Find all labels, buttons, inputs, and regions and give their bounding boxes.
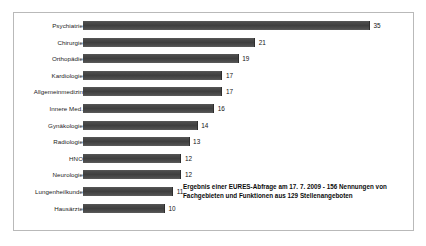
category-label: Neurologie [0, 169, 83, 180]
category-label-container: Innere Med. [14, 103, 83, 114]
bar-row: Psychiatrie35 [14, 20, 413, 31]
bar-row: Neurologie12 [14, 169, 413, 180]
bar [83, 38, 255, 47]
category-label: Kardiologie [0, 70, 83, 81]
bar [83, 71, 222, 80]
bar-value-label: 13 [193, 136, 200, 147]
category-label: HNO [0, 153, 83, 164]
bar-row: Hausärzte10 [14, 203, 413, 214]
category-label-container: Neurologie [14, 169, 83, 180]
bar [83, 104, 214, 113]
chart-annotation: Ergebnis einer EURES-Abfrage am 17. 7. 2… [183, 182, 395, 201]
bar-value-label: 17 [226, 86, 233, 97]
bar-row: Orthopädie19 [14, 53, 413, 64]
bar-row: Chirurgie21 [14, 37, 413, 48]
bar [83, 54, 239, 63]
bar [83, 87, 222, 96]
category-label-container: Radiologie [14, 136, 83, 147]
category-label: Allgemeinmedizin [0, 86, 83, 97]
bar [83, 170, 181, 179]
category-label: Hausärzte [0, 203, 83, 214]
category-label-container: HNO [14, 153, 83, 164]
category-label: Orthopädie [0, 53, 83, 64]
category-label-container: Kardiologie [14, 70, 83, 81]
bar-row: Kardiologie17 [14, 70, 413, 81]
category-label: Lungenheilkunde [0, 186, 83, 197]
bar [83, 121, 198, 130]
bar [83, 154, 181, 163]
bar-value-label: 10 [169, 203, 176, 214]
bar-value-label: 21 [259, 37, 266, 48]
bar [83, 187, 173, 196]
bar-value-label: 12 [185, 153, 192, 164]
bar-value-label: 35 [374, 20, 381, 31]
category-label-container: Orthopädie [14, 53, 83, 64]
category-label-container: Hausärzte [14, 203, 83, 214]
category-label-container: Chirurgie [14, 37, 83, 48]
category-label: Radiologie [0, 136, 83, 147]
bar-row: HNO12 [14, 153, 413, 164]
bar-row: Innere Med.16 [14, 103, 413, 114]
bar-row: Allgemeinmedizin17 [14, 86, 413, 97]
category-label: Chirurgie [0, 37, 83, 48]
annotation-line-2: Fachgebieten und Funktionen aus 129 Stel… [183, 191, 395, 200]
category-label-container: Allgemeinmedizin [14, 86, 83, 97]
bar-value-label: 17 [226, 70, 233, 81]
annotation-line-1: Ergebnis einer EURES-Abfrage am 17. 7. 2… [183, 182, 395, 191]
category-label-container: Psychiatrie [14, 20, 83, 31]
category-label: Gynäkologie [0, 120, 83, 131]
category-label-container: Lungenheilkunde [14, 186, 83, 197]
category-label-container: Gynäkologie [14, 120, 83, 131]
bar-value-label: 16 [218, 103, 225, 114]
category-label: Psychiatrie [0, 20, 83, 31]
bar [83, 21, 370, 30]
bar [83, 137, 190, 146]
bar-value-label: 19 [242, 53, 249, 64]
bar-value-label: 14 [201, 120, 208, 131]
category-label: Innere Med. [0, 103, 83, 114]
bar [83, 204, 165, 213]
bar-value-label: 12 [185, 169, 192, 180]
bar-row: Radiologie13 [14, 136, 413, 147]
bar-row: Gynäkologie14 [14, 120, 413, 131]
